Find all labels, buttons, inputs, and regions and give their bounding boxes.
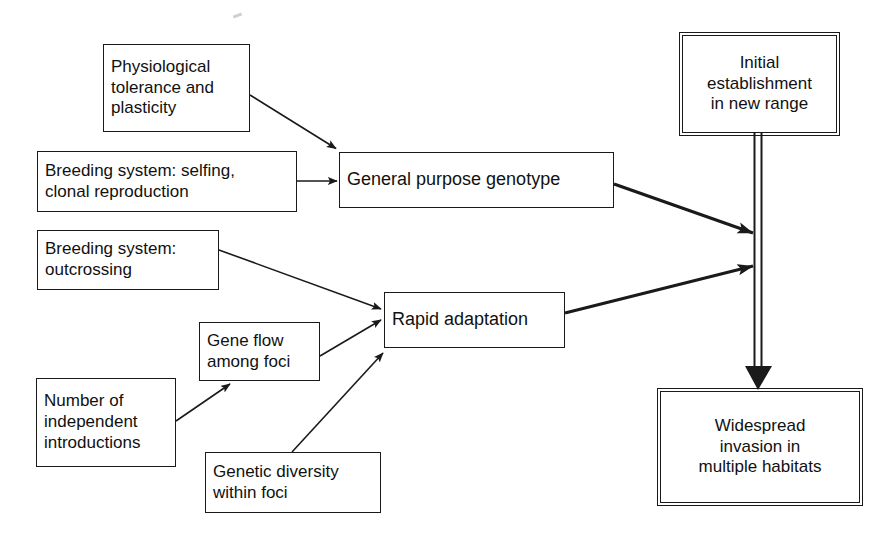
node-label: Physiological tolerance and plasticity [104,57,221,119]
edge-outcrossing-to-rapid [219,250,381,309]
edge-geneflow-to-rapid [320,320,381,356]
node-label: Breeding system: outcrossing [38,239,183,280]
node-label: Gene flow among foci [200,331,297,372]
edge-establishment-to-invasion [745,133,772,390]
node-number-introductions[interactable]: Number of independent introductions [36,378,176,467]
node-gene-flow[interactable]: Gene flow among foci [199,322,320,381]
edge-rapid-to-trunk [565,266,753,313]
edge-introductions-to-geneflow [176,384,230,421]
node-label: General purpose genotype [340,169,567,191]
node-label: Genetic diversity within foci [206,462,346,503]
node-genetic-diversity[interactable]: Genetic diversity within foci [205,452,381,513]
node-initial-establishment[interactable]: Initial establishment in new range [682,35,837,133]
node-general-purpose-genotype[interactable]: General purpose genotype [339,152,614,208]
node-rapid-adaptation[interactable]: Rapid adaptation [384,292,565,348]
node-label: Rapid adaptation [385,309,535,331]
node-physiological-tolerance[interactable]: Physiological tolerance and plasticity [103,44,250,132]
node-breeding-outcrossing[interactable]: Breeding system: outcrossing [37,230,219,290]
node-label: Widespread invasion in multiple habitats [692,416,829,478]
node-label: Initial establishment in new range [700,53,819,115]
diagram-canvas: Physiological tolerance and plasticity B… [0,0,889,536]
node-widespread-invasion[interactable]: Widespread invasion in multiple habitats [660,391,860,503]
node-label: Breeding system: selfing, clonal reprodu… [38,161,242,202]
node-breeding-selfing[interactable]: Breeding system: selfing, clonal reprodu… [37,151,297,212]
edge-gpg-to-trunk [614,184,753,233]
edge-physiological-to-gpg [250,95,336,149]
node-label: Number of independent introductions [37,391,147,453]
